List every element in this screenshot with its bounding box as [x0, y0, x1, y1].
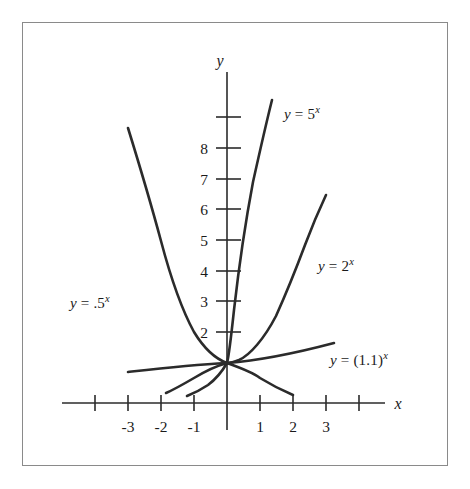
- curve-label-one-point-one-power-x: y = (1.1)x: [330, 352, 388, 369]
- curve-label-half-eq: = .5: [81, 295, 105, 311]
- curve-label-onepointone-lhs: y: [330, 352, 337, 368]
- x-tick-label-1: 1: [256, 418, 264, 435]
- curve-label-half-power-x: y = .5x: [70, 295, 110, 312]
- y-tick-label-6: 6: [200, 201, 208, 218]
- y-tick-label-2: 2: [200, 324, 208, 341]
- y-tick-label-8: 8: [200, 140, 208, 157]
- x-tick-label-3: 3: [322, 418, 330, 435]
- figure-page: -3 -2 -1 1 2 3 2 3 4 5 6 7 8 y x y = 5x …: [0, 0, 470, 489]
- x-tick-label-minus2: -2: [155, 418, 168, 435]
- y-axis-ticks: [216, 117, 241, 332]
- exponential-graph-plot: -3 -2 -1 1 2 3 2 3 4 5 6 7 8 y x: [0, 0, 470, 489]
- x-tick-label-minus3: -3: [122, 418, 135, 435]
- curve-label-onepointone-exp: x: [383, 350, 388, 361]
- curve-label-five-power-x: y = 5x: [284, 106, 320, 123]
- curve-label-half-exp: x: [105, 293, 110, 304]
- curve-half-power-x: [128, 128, 293, 395]
- y-tick-label-7: 7: [200, 171, 208, 188]
- curve-label-onepointone-eq: = (1.1): [341, 352, 383, 368]
- y-tick-label-4: 4: [200, 263, 208, 280]
- curve-label-five-eq: = 5: [295, 106, 315, 122]
- curve-one-point-one-power-x: [128, 343, 334, 372]
- y-axis-label: y: [214, 52, 224, 70]
- x-tick-label-2: 2: [289, 418, 297, 435]
- curve-label-two-power-x: y = 2x: [318, 258, 354, 275]
- curve-label-two-eq: = 2: [329, 258, 349, 274]
- y-tick-label-3: 3: [200, 293, 208, 310]
- x-axis-label: x: [393, 395, 401, 412]
- curve-label-five-lhs: y: [284, 106, 291, 122]
- y-tick-label-5: 5: [200, 232, 208, 249]
- curve-label-half-lhs: y: [70, 295, 77, 311]
- curve-label-two-lhs: y: [318, 258, 325, 274]
- x-tick-label-minus1: -1: [188, 418, 201, 435]
- curve-label-two-exp: x: [349, 256, 354, 267]
- curve-label-five-exp: x: [315, 104, 320, 115]
